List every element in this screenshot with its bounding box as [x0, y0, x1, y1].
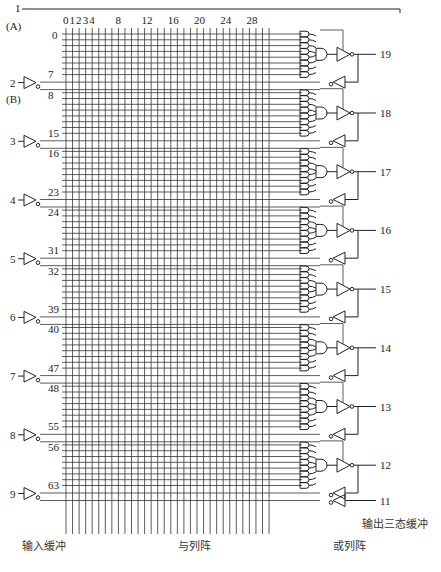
output-pin-label: 14 — [380, 342, 392, 354]
row-0-label: 0 — [52, 29, 58, 41]
row-label: 15 — [48, 127, 60, 139]
output-pin-label: 15 — [380, 283, 392, 295]
and-array-caption: 与列阵 — [178, 539, 211, 553]
pin-a-alias: (A) — [6, 20, 22, 33]
output-macrocells — [300, 30, 376, 507]
input-buffers — [18, 77, 40, 500]
input-pin-label: 6 — [10, 311, 16, 323]
row-label: 47 — [48, 362, 60, 374]
column-label: 2 — [76, 14, 82, 26]
output-pin-label: 13 — [380, 401, 392, 413]
row-label: 23 — [48, 186, 60, 198]
row-label: 31 — [48, 244, 59, 256]
row-label: 16 — [48, 147, 60, 159]
column-label: 0 — [63, 14, 69, 26]
column-label: 1 — [70, 14, 76, 26]
column-label: 8 — [115, 14, 121, 26]
row-label: 63 — [48, 479, 60, 491]
pin-1-label: 1 — [15, 2, 21, 14]
output-pin-label: 12 — [380, 459, 391, 471]
column-label: 16 — [168, 14, 180, 26]
pin-11-label: 11 — [380, 495, 391, 507]
input-pin-label: 2 — [10, 77, 16, 89]
column-label: 20 — [194, 14, 206, 26]
input-pin-label: 4 — [10, 194, 16, 206]
row-label: 8 — [48, 89, 54, 101]
input-pin-label: 8 — [10, 429, 16, 441]
row-label: 39 — [48, 303, 60, 315]
output-pin-label: 16 — [380, 224, 392, 236]
output-pin-label: 17 — [380, 166, 392, 178]
output-pin-label: 18 — [380, 107, 392, 119]
input-pin-label: 7 — [10, 370, 16, 382]
column-label: 3 — [83, 14, 89, 26]
gal-logic-diagram: 1 (A) (B) 0 输入缓冲 与列阵 或列阵 输出三态缓冲 01234812… — [0, 0, 441, 572]
row-label: 55 — [48, 420, 60, 432]
row-label: 56 — [48, 441, 60, 453]
input-pin-label: 9 — [10, 488, 16, 500]
column-label: 28 — [246, 14, 258, 26]
input-pin-label: 3 — [10, 135, 16, 147]
row-label: 7 — [48, 68, 54, 80]
column-label: 12 — [142, 14, 153, 26]
column-label: 24 — [220, 14, 232, 26]
row-label: 40 — [48, 323, 60, 335]
output-pin-label: 19 — [380, 48, 392, 60]
pin-b-alias: (B) — [6, 93, 21, 106]
row-label: 24 — [48, 206, 60, 218]
output-buffer-caption: 输出三态缓冲 — [362, 517, 428, 531]
column-label: 4 — [89, 14, 95, 26]
row-label: 48 — [48, 382, 60, 394]
input-buffer-caption: 输入缓冲 — [22, 539, 66, 553]
row-label: 32 — [48, 265, 59, 277]
input-pin-label: 5 — [10, 253, 16, 265]
or-array-caption: 或列阵 — [333, 539, 366, 553]
